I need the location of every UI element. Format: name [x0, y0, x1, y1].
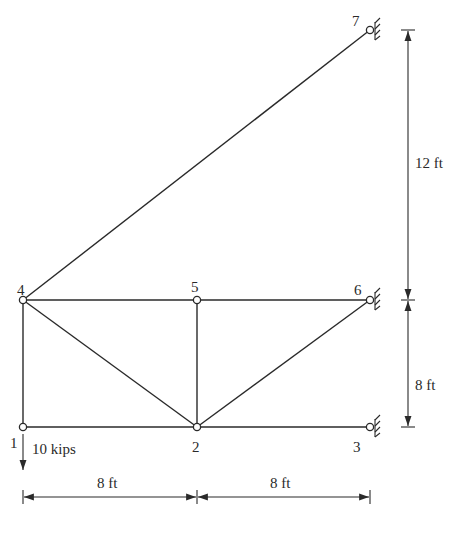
vertical-dimensions: 12 ft 8 ft: [401, 30, 444, 427]
load-10-kips: 10 kips: [23, 434, 76, 470]
node-label-6: 6: [354, 282, 362, 298]
horizontal-dimensions: 8 ft 8 ft: [23, 475, 370, 504]
node-label-2: 2: [192, 439, 200, 455]
node-label-7: 7: [352, 13, 360, 29]
node-label-4: 4: [17, 282, 25, 298]
support-7: [375, 18, 380, 40]
node-3: [366, 423, 373, 430]
node-label-3: 3: [353, 439, 361, 455]
dim-label-2-3: 8 ft: [270, 475, 291, 491]
members: [23, 30, 370, 427]
node-label-1: 1: [10, 435, 18, 451]
node-2: [193, 423, 200, 430]
member-4-7: [23, 30, 370, 300]
truss-diagram: 7 4 5 6 1 2 3 10 kips 8 ft 8 ft 12 ft 8 …: [0, 0, 467, 534]
node-labels: 7 4 5 6 1 2 3: [10, 13, 362, 455]
support-6: [375, 288, 380, 310]
dim-label-6-3: 8 ft: [415, 377, 436, 393]
member-4-2: [23, 300, 197, 427]
dim-label-7-6: 12 ft: [415, 155, 444, 171]
node-label-5: 5: [191, 279, 199, 295]
node-5: [193, 296, 200, 303]
member-2-6: [197, 300, 370, 427]
node-7: [366, 26, 373, 33]
support-3: [375, 415, 380, 437]
node-6: [366, 296, 373, 303]
node-1: [19, 423, 26, 430]
load-label: 10 kips: [32, 441, 76, 457]
dim-label-1-2: 8 ft: [97, 475, 118, 491]
